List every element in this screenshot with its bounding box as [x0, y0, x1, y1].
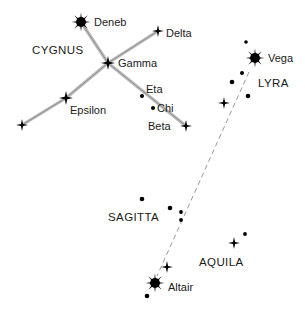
star-spike-glyph	[72, 13, 91, 32]
star-label-epsilon: Epsilon	[70, 104, 106, 116]
star-deneb	[72, 13, 91, 32]
star-dot-glyph	[179, 218, 183, 222]
link-line-core	[66, 63, 108, 98]
star-core-glyph	[233, 242, 235, 244]
star-label-delta: Delta	[166, 27, 193, 39]
star-unlabeled	[228, 237, 240, 249]
star-vega	[246, 49, 265, 68]
star-label-beta: Beta	[148, 120, 172, 132]
star-chi	[151, 106, 155, 110]
star-core-glyph	[107, 62, 110, 65]
star-unlabeled	[161, 261, 173, 273]
constellation-label-sagitta: SAGITTA	[108, 211, 159, 223]
star-label-chi: Chi	[157, 102, 174, 114]
star-core-glyph	[185, 125, 187, 127]
star-core-glyph	[65, 97, 68, 100]
star-dot-glyph	[230, 80, 235, 85]
star-unlabeled	[168, 206, 173, 211]
star-dot-glyph	[151, 106, 155, 110]
star-dot-glyph	[246, 94, 251, 99]
constellation-link	[81, 22, 108, 63]
star-label-deneb: Deneb	[94, 16, 126, 28]
star-core-glyph	[21, 124, 23, 126]
star-unlabeled	[246, 94, 251, 99]
star-unlabeled	[140, 197, 145, 202]
constellation-link	[22, 98, 66, 125]
star-label-vega: Vega	[268, 52, 294, 64]
star-label-eta: Eta	[146, 83, 163, 95]
link-line-core	[81, 22, 108, 63]
star-dot-glyph	[240, 71, 244, 75]
star-dot-glyph	[244, 40, 248, 44]
constellation-label-cygnus: CYGNUS	[32, 44, 84, 56]
star-dot-glyph	[179, 210, 183, 214]
star-dot-glyph	[140, 197, 145, 202]
star-unlabeled	[218, 97, 230, 109]
star-eta	[140, 94, 144, 98]
star-core-glyph	[157, 30, 159, 32]
sky-canvas: DenebDeltaGammaEpsilonEtaChiBetaVegaAlta…	[0, 0, 305, 311]
star-unlabeled	[145, 294, 150, 299]
star-unlabeled	[230, 80, 235, 85]
star-unlabeled	[240, 71, 244, 75]
star-unlabeled	[179, 218, 183, 222]
star-label-altair: Altair	[168, 281, 193, 293]
star-dot-glyph	[145, 294, 150, 299]
star-altair	[146, 274, 165, 293]
star-spike-glyph	[146, 274, 165, 293]
star-core-glyph	[166, 266, 168, 268]
star-chart: DenebDeltaGammaEpsilonEtaChiBetaVegaAlta…	[0, 0, 305, 311]
star-label-gamma: Gamma	[118, 57, 158, 69]
star-unlabeled	[244, 40, 248, 44]
star-unlabeled	[179, 210, 183, 214]
constellation-link	[66, 63, 108, 98]
star-spike-glyph	[246, 49, 265, 68]
link-line-core	[22, 98, 66, 125]
star-dot-glyph	[140, 94, 144, 98]
star-unlabeled	[243, 232, 247, 236]
constellation-label-lyra: LYRA	[258, 77, 289, 89]
constellation-label-aquila: AQUILA	[199, 256, 244, 268]
star-core-glyph	[223, 102, 225, 104]
star-dot-glyph	[168, 206, 173, 211]
star-dot-glyph	[243, 232, 247, 236]
